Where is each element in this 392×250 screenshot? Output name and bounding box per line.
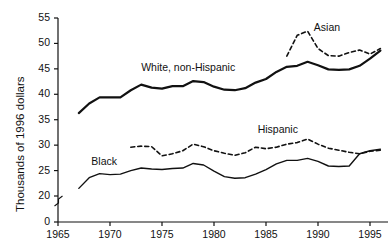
y-tick-label: 25 — [0, 164, 50, 176]
series-label-asian: Asian — [314, 21, 340, 33]
x-axis-ticks — [58, 222, 370, 226]
y-tick-label: 45 — [0, 62, 50, 74]
x-tick-label: 1965 — [38, 228, 78, 240]
axes — [55, 18, 389, 222]
y-tick-label: 30 — [0, 138, 50, 150]
data-series-lines — [79, 31, 381, 188]
series-label-white-non-hispanic: White, non-Hispanic — [141, 61, 235, 73]
series-line-asian — [287, 31, 381, 56]
x-tick-label: 1995 — [350, 228, 390, 240]
y-tick-label: 35 — [0, 113, 50, 125]
x-tick-label: 1975 — [142, 228, 182, 240]
y-tick-label: 50 — [0, 36, 50, 48]
series-line-hispanic — [131, 139, 381, 156]
income-by-race-line-chart: Thousands of 1996 dollars 02025303540455… — [0, 0, 392, 250]
y-tick-label: 20 — [0, 189, 50, 201]
x-tick-label: 1970 — [90, 228, 130, 240]
plot-area — [0, 0, 392, 250]
y-tick-label: 0 — [0, 215, 50, 227]
series-label-black: Black — [91, 155, 117, 167]
x-tick-label: 1985 — [246, 228, 286, 240]
series-label-hispanic: Hispanic — [258, 123, 298, 135]
y-tick-label: 40 — [0, 87, 50, 99]
y-tick-label: 55 — [0, 11, 50, 23]
x-tick-label: 1990 — [298, 228, 338, 240]
x-tick-label: 1980 — [194, 228, 234, 240]
